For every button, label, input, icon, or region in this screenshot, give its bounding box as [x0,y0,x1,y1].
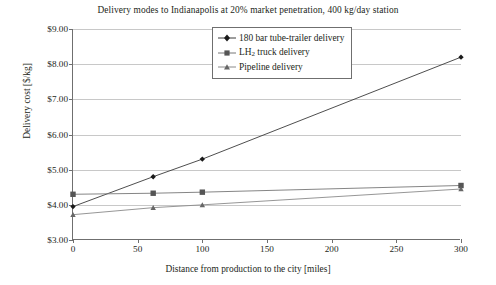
y-tick-label: $5.00 [47,165,68,175]
x-tick-label: 200 [325,244,339,254]
x-tick-label: 300 [454,244,468,254]
legend-label-pipeline: Pipeline delivery [239,62,303,72]
x-tick-label: 100 [195,244,209,254]
chart-container: Delivery modes to Indianapolis at 20% ma… [0,0,496,285]
data-point-marker [200,189,205,194]
series-line [73,189,461,215]
legend-label-tube-trailer: 180 bar tube-trailer delivery [239,33,344,43]
y-tick-label: $9.00 [47,24,68,34]
data-point-marker [458,54,463,59]
data-point-marker [70,192,75,197]
x-tick-label: 0 [71,244,76,254]
triangle-marker-icon [218,61,236,73]
data-point-marker [150,191,155,196]
legend-item-tube-trailer: 180 bar tube-trailer delivery [218,31,344,46]
y-axis-label: Delivery cost [$/kg] [22,26,32,176]
data-point-marker [200,156,205,161]
y-tick-label: $7.00 [47,94,68,104]
chart-title: Delivery modes to Indianapolis at 20% ma… [0,5,496,15]
y-tick-label: $4.00 [47,200,68,210]
data-point-marker [150,174,155,179]
legend-item-pipeline: Pipeline delivery [218,60,344,75]
x-tick-mark [461,239,462,243]
y-tick-label: $3.00 [47,235,68,245]
x-tick-label: 250 [389,244,403,254]
legend-label-lh2-truck: LH2 truck delivery [239,47,310,58]
x-tick-label: 150 [260,244,274,254]
series-line [73,57,461,206]
series-square [70,183,463,197]
x-axis-label: Distance from production to the city [mi… [0,264,496,274]
legend-item-lh2-truck: LH2 truck delivery [218,46,344,61]
y-tick-label: $6.00 [47,130,68,140]
x-tick-label: 50 [133,244,142,254]
chart-legend: 180 bar tube-trailer delivery LH2 truck … [212,27,352,79]
square-marker-icon [218,47,236,59]
y-tick-label: $8.00 [47,59,68,69]
plot-area: $3.00$4.00$5.00$6.00$7.00$8.00$9.00 0501… [72,29,460,240]
diamond-marker-icon [218,32,236,44]
